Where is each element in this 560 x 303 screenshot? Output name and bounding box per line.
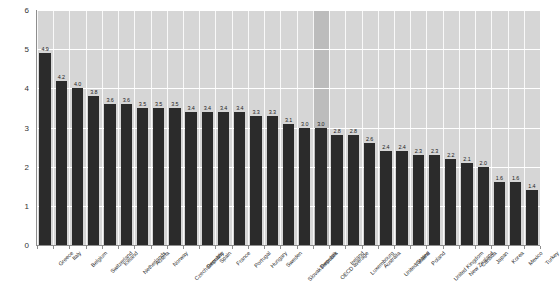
x-axis-label: Iceland bbox=[122, 250, 139, 267]
bar[interactable] bbox=[331, 135, 342, 245]
bar[interactable] bbox=[429, 155, 440, 245]
bar-value-label: 3.1 bbox=[280, 117, 296, 123]
bar[interactable] bbox=[396, 151, 407, 245]
bar-value-label: 3.4 bbox=[232, 105, 248, 111]
x-axis-label: Norway bbox=[171, 250, 188, 267]
x-axis-spine bbox=[37, 245, 540, 246]
x-axis-tick-mark bbox=[524, 246, 525, 249]
bar[interactable] bbox=[494, 182, 505, 245]
x-axis-tick-mark bbox=[232, 246, 233, 249]
bar-value-label: 3.6 bbox=[102, 97, 118, 103]
x-axis-label: Belgium bbox=[90, 250, 108, 268]
x-axis-tick-mark bbox=[199, 246, 200, 249]
x-axis-label: France bbox=[235, 250, 251, 266]
bar[interactable] bbox=[218, 112, 229, 245]
bar[interactable] bbox=[526, 190, 537, 245]
x-axis-label: OECD average bbox=[339, 250, 370, 281]
bar[interactable] bbox=[299, 128, 310, 246]
bar[interactable] bbox=[153, 108, 164, 245]
y-axis-tick-label: 2 bbox=[25, 162, 29, 171]
bar[interactable] bbox=[234, 112, 245, 245]
bar-value-label: 2.1 bbox=[459, 156, 475, 162]
bar-value-label: 2.8 bbox=[345, 128, 361, 134]
bar-value-label: 3.5 bbox=[167, 101, 183, 107]
x-axis-tick-mark bbox=[508, 246, 509, 249]
y-axis-tick-label: 5 bbox=[25, 45, 29, 54]
x-axis-label: Denmark bbox=[318, 250, 338, 270]
bar[interactable] bbox=[445, 159, 456, 245]
bar[interactable] bbox=[121, 104, 132, 245]
bar-value-label: 2.3 bbox=[410, 148, 426, 154]
bar-value-label: 2.2 bbox=[443, 152, 459, 158]
gridline-horizontal bbox=[37, 49, 540, 50]
bar[interactable] bbox=[413, 155, 424, 245]
bar[interactable] bbox=[283, 124, 294, 245]
x-axis-tick-mark bbox=[329, 246, 330, 249]
bar-value-label: 3.3 bbox=[248, 109, 264, 115]
x-axis-label: Austria bbox=[154, 250, 170, 266]
bar-value-label: 3.6 bbox=[118, 97, 134, 103]
bar-value-label: 3.5 bbox=[134, 101, 150, 107]
bar[interactable] bbox=[72, 88, 83, 245]
bar[interactable] bbox=[510, 182, 521, 245]
gridline-horizontal bbox=[37, 88, 540, 89]
bar-value-label: 2.4 bbox=[378, 144, 394, 150]
x-axis-tick-mark bbox=[53, 246, 54, 249]
x-axis-tick-mark bbox=[426, 246, 427, 249]
y-axis-tick-label: 1 bbox=[25, 201, 29, 210]
bar[interactable] bbox=[104, 104, 115, 245]
bar-value-label: 2.8 bbox=[329, 128, 345, 134]
bar[interactable] bbox=[478, 167, 489, 245]
bar[interactable] bbox=[461, 163, 472, 245]
bar[interactable] bbox=[348, 135, 359, 245]
x-axis-tick-mark bbox=[443, 246, 444, 249]
bar-value-label: 2.0 bbox=[475, 160, 491, 166]
bar-value-label: 3.3 bbox=[264, 109, 280, 115]
bar[interactable] bbox=[88, 96, 99, 245]
gridline-horizontal bbox=[37, 10, 540, 11]
bar-value-label: 4.9 bbox=[37, 46, 53, 52]
bar-value-label: 3.0 bbox=[297, 121, 313, 127]
x-axis-label: Turkey bbox=[544, 250, 560, 266]
x-axis-tick-mark bbox=[102, 246, 103, 249]
y-axis-tick-label: 0 bbox=[25, 241, 29, 250]
bar[interactable] bbox=[364, 143, 375, 245]
bar[interactable] bbox=[39, 53, 50, 245]
x-axis-tick-mark bbox=[491, 246, 492, 249]
x-axis-tick-mark bbox=[459, 246, 460, 249]
x-axis-tick-mark bbox=[394, 246, 395, 249]
x-axis-tick-mark bbox=[378, 246, 379, 249]
x-axis-tick-mark bbox=[167, 246, 168, 249]
bar-value-label: 3.4 bbox=[215, 105, 231, 111]
bar[interactable] bbox=[202, 112, 213, 245]
x-axis-tick-mark bbox=[37, 246, 38, 249]
x-axis-label: Portugal bbox=[253, 250, 272, 269]
y-axis-tick-label: 4 bbox=[25, 84, 29, 93]
bar[interactable] bbox=[56, 81, 67, 246]
bar-value-label: 3.0 bbox=[313, 121, 329, 127]
bar-value-label: 1.6 bbox=[508, 175, 524, 181]
bar-value-label: 1.6 bbox=[491, 175, 507, 181]
x-axis-label: Finland bbox=[414, 250, 431, 267]
x-axis-tick-mark bbox=[297, 246, 298, 249]
bar[interactable] bbox=[169, 108, 180, 245]
bar-value-label: 1.4 bbox=[524, 183, 540, 189]
bar-value-label: 3.8 bbox=[86, 89, 102, 95]
bar[interactable] bbox=[185, 112, 196, 245]
bar[interactable] bbox=[250, 116, 261, 245]
bar-value-label: 2.4 bbox=[394, 144, 410, 150]
x-axis-tick-mark bbox=[183, 246, 184, 249]
bar-value-label: 4.0 bbox=[69, 81, 85, 87]
bar[interactable] bbox=[315, 128, 326, 246]
x-axis-tick-mark bbox=[151, 246, 152, 249]
bar[interactable] bbox=[380, 151, 391, 245]
bar-value-label: 3.4 bbox=[183, 105, 199, 111]
bar[interactable] bbox=[267, 116, 278, 245]
x-axis-tick-mark bbox=[264, 246, 265, 249]
x-axis-label: Italy bbox=[71, 250, 82, 261]
x-axis-label: Hungary bbox=[269, 250, 288, 269]
bar[interactable] bbox=[137, 108, 148, 245]
bar-value-label: 3.4 bbox=[199, 105, 215, 111]
y-axis-tick-label: 6 bbox=[25, 6, 29, 15]
